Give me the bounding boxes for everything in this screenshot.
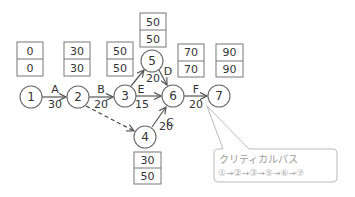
activity-duration: 20 [94, 98, 108, 111]
callout-path: ①→②→③→⑤→⑥→⑦ [218, 168, 304, 178]
earliest-time: 30 [70, 45, 84, 58]
svg-text:4: 4 [141, 130, 149, 144]
svg-text:2: 2 [74, 90, 82, 104]
latest-time: 90 [223, 63, 237, 76]
earliest-time: 90 [223, 46, 237, 59]
activity-name: E [138, 83, 145, 96]
earliest-time: 0 [27, 45, 34, 58]
activity-duration: 30 [48, 98, 62, 111]
activity-name: F [193, 83, 199, 96]
time-box-node-1: 0 0 [17, 42, 43, 76]
activity-duration: 15 [135, 98, 149, 111]
activity-name: B [97, 83, 105, 96]
activity-duration: 20 [146, 72, 160, 85]
svg-text:6: 6 [169, 89, 177, 103]
latest-time: 0 [27, 62, 34, 75]
svg-text:1: 1 [27, 90, 35, 104]
pert-diagram: 0 0 30 30 50 50 50 50 70 70 90 90 30 50 [0, 0, 355, 197]
activity-name: D [164, 65, 172, 78]
node-7: 7 [208, 85, 230, 107]
time-box-node-3: 50 50 [107, 42, 133, 76]
node-5: 5 [141, 50, 163, 72]
svg-text:5: 5 [148, 54, 156, 68]
time-box-node-4: 30 50 [134, 152, 161, 184]
svg-text:3: 3 [121, 89, 129, 103]
critical-path-callout: クリティカルパス ①→②→③→⑤→⑥→⑦ [207, 106, 337, 182]
node-3: 3 [114, 85, 136, 107]
latest-time: 50 [146, 33, 160, 46]
latest-time: 50 [113, 62, 127, 75]
earliest-time: 70 [184, 46, 198, 59]
node-6: 6 [162, 85, 184, 107]
earliest-time: 30 [141, 154, 155, 167]
node-2: 2 [67, 86, 89, 108]
time-box-node-2: 30 30 [64, 42, 90, 76]
activity-duration: 20 [159, 120, 173, 133]
earliest-time: 50 [113, 45, 127, 58]
earliest-time: 50 [146, 16, 160, 29]
latest-time: 50 [141, 170, 155, 183]
time-box-node-6: 70 70 [178, 44, 204, 77]
callout-title: クリティカルパス [219, 154, 298, 165]
activity-name: A [51, 83, 59, 96]
node-1: 1 [20, 86, 42, 108]
svg-text:7: 7 [215, 89, 223, 103]
latest-time: 70 [184, 63, 198, 76]
node-4: 4 [134, 126, 156, 148]
time-box-node-7: 90 90 [216, 44, 243, 77]
latest-time: 30 [70, 62, 84, 75]
time-box-node-5: 50 50 [140, 13, 166, 47]
activity-duration: 20 [189, 98, 203, 111]
